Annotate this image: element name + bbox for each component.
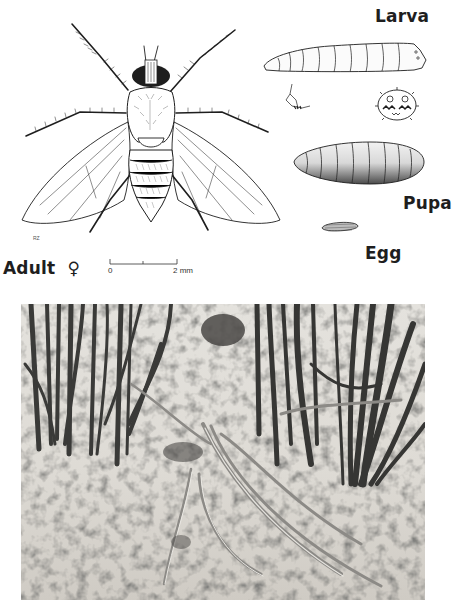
field-photo-image (21, 304, 425, 600)
soil-clump (201, 314, 245, 346)
illustration-plate: Larva Pupa Egg Adult ♀ RZ 0 2 mm (0, 0, 453, 290)
scale-bar-end-label: 2 mm (173, 267, 193, 275)
scale-bar (0, 0, 453, 290)
scale-bar-start-label: 0 (108, 267, 112, 275)
field-photo (21, 304, 425, 600)
